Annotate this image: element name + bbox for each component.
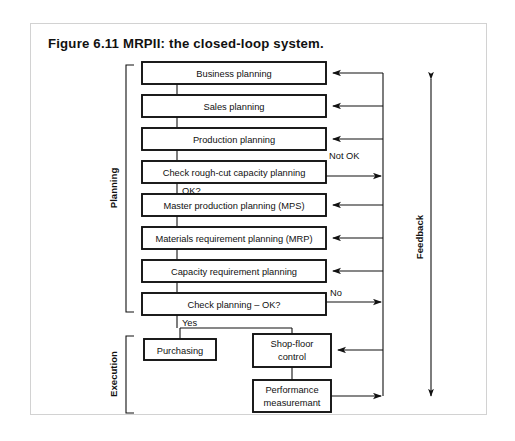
label-purchasing: Purchasing: [157, 346, 204, 356]
feedback-bus: [326, 73, 383, 396]
label-no: No: [330, 288, 342, 298]
label-execution-bracket: Execution: [108, 351, 119, 397]
label-performance-line2: measuremant: [264, 398, 321, 408]
planning-boxes: [142, 62, 326, 315]
label-sales-planning: Sales planning: [204, 102, 265, 112]
label-performance-line1: Performance: [265, 385, 318, 395]
label-ok-question: OK?: [182, 186, 201, 196]
label-planning-bracket: Planning: [108, 168, 119, 209]
label-mrp: Materials requirement planning (MRP): [155, 234, 312, 244]
planning-bracket: [126, 65, 134, 312]
label-check-planning: Check planning – OK?: [187, 300, 280, 310]
figure-panel: Figure 6.11 MRPII: the closed-loop syste…: [30, 23, 487, 415]
label-check-rough-cut: Check rough-cut capacity planning: [163, 168, 306, 178]
label-shop-floor-line2: control: [278, 352, 306, 362]
label-not-ok: Not OK: [329, 151, 360, 161]
label-business-planning: Business planning: [196, 69, 271, 79]
label-yes: Yes: [182, 318, 198, 328]
label-mps: Master production planning (MPS): [163, 201, 304, 211]
label-feedback: Feedback: [414, 214, 425, 259]
label-crp: Capacity requirement planning: [171, 267, 297, 277]
label-shop-floor-line1: Shop-floor: [271, 339, 314, 349]
mrpii-flow-diagram: Business planning Sales planning Product…: [31, 24, 488, 416]
execution-bracket: [126, 336, 134, 413]
label-production-planning: Production planning: [193, 135, 275, 145]
